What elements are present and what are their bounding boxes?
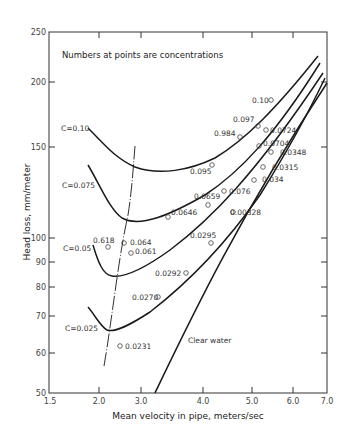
chart-canvas: 1.5 2.0 3.0 4.0 5.0 6.0 7.0 Mean velocit… [0,0,353,439]
measured-points: 0.10 0.097 0.984 0.0724 0.0704 0.0348 0.… [93,96,306,351]
y-tick-label: 80 [36,283,46,292]
curve-c-0-025 [88,78,325,331]
svg-text:0.097: 0.097 [233,115,255,124]
y-tick-label: 150 [31,143,46,152]
minimum-locus-line [104,146,135,366]
y-tick-label: 50 [36,389,46,398]
curve-clear-water [155,83,327,393]
svg-text:0.00328: 0.00328 [230,208,261,217]
y-tick-label: 200 [31,78,46,87]
svg-text:0.064: 0.064 [130,238,152,247]
curve-label: C=0.05 [63,244,91,253]
svg-text:0.0231: 0.0231 [125,342,151,351]
x-tick-label: 1.5 [44,397,57,406]
x-tick-label: 3.0 [135,397,148,406]
svg-text:0.034: 0.034 [262,175,284,184]
svg-text:0.0659: 0.0659 [194,192,220,201]
curve-label: C=0.10 [61,124,89,133]
svg-text:0.0646: 0.0646 [171,208,197,217]
svg-text:0.095: 0.095 [190,167,212,176]
y-tick-label: 60 [36,349,46,358]
svg-text:0.0292: 0.0292 [155,269,181,278]
y-axis-title: Head loss, mm/meter [22,163,32,260]
curve-label: Clear water [188,336,232,345]
x-axis-title: Mean velocity in pipe, meters/sec [112,411,264,421]
y-tick-label: 70 [36,312,46,321]
curve-label: C=0.075 [62,181,95,190]
svg-text:0.10: 0.10 [252,96,269,105]
x-tick-label: 5.0 [246,397,259,406]
svg-text:0.0315: 0.0315 [272,163,298,172]
svg-text:0.061: 0.061 [135,247,157,256]
y-tick-label: 250 [31,28,46,37]
x-tick-label: 7.0 [321,397,334,406]
svg-text:0.0295: 0.0295 [190,231,216,240]
svg-text:0.0724: 0.0724 [270,126,296,135]
chart-annotation: Numbers at points are concentrations [62,50,224,60]
svg-text:0.984: 0.984 [214,129,236,138]
x-tick-label: 6.0 [287,397,300,406]
y-tick-label: 100 [31,234,46,243]
svg-text:0.0704: 0.0704 [263,139,289,148]
x-tick-label: 2.0 [93,397,106,406]
x-tick-label: 4.0 [197,397,210,406]
svg-text:0.0270: 0.0270 [132,293,158,302]
svg-text:0.618: 0.618 [93,236,115,245]
curve-label: C=0.025 [65,324,98,333]
svg-text:0.076: 0.076 [229,187,251,196]
y-tick-label: 90 [36,258,46,267]
svg-text:0.0348: 0.0348 [280,148,306,157]
